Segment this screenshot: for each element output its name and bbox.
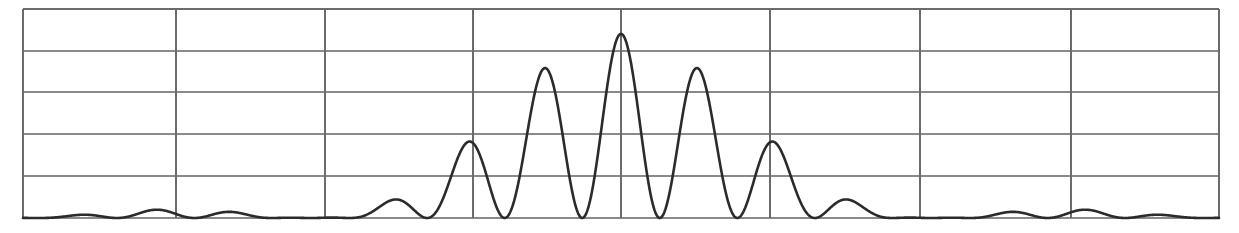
interference-figure <box>0 0 1239 233</box>
vertical-gridlines <box>23 9 1219 218</box>
interference-plot-svg <box>0 0 1239 233</box>
